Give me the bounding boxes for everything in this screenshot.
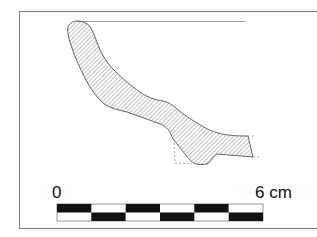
scale-start-label: 0 (52, 184, 61, 201)
sherd-section (68, 21, 253, 165)
scale-bar (57, 204, 263, 221)
scale-end-label: 6 cm (255, 184, 292, 201)
